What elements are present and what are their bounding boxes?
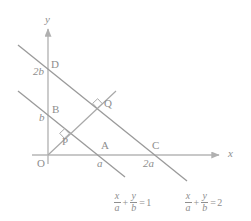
plus-operator-eq2: + <box>194 197 200 208</box>
y-tick-b: b <box>39 112 45 123</box>
x-tick-a: a <box>97 158 103 169</box>
rhs-value-eq1: 1 <box>146 197 151 208</box>
y-tick-2b: 2b <box>33 66 44 77</box>
fraction-y-over-b-eq1: y b <box>130 191 137 213</box>
denominator-b-eq1: b <box>130 203 137 214</box>
fraction-x-over-a-eq2: x a <box>185 191 192 213</box>
equation-line-one: x a + y b = 1 <box>113 191 151 213</box>
equals-sign-eq1: = <box>139 197 145 208</box>
x-axis-label: x <box>228 148 233 159</box>
numerator-y-eq1: y <box>130 191 136 202</box>
point-label-c: C <box>152 140 159 151</box>
denominator-a-eq1: a <box>114 203 121 214</box>
point-label-q: Q <box>104 98 112 109</box>
point-label-a: A <box>101 140 109 151</box>
point-label-p: P <box>62 136 68 147</box>
denominator-b-eq2: b <box>201 203 208 214</box>
numerator-y-eq2: y <box>201 191 207 202</box>
rhs-value-eq2: 2 <box>217 197 222 208</box>
fraction-y-over-b-eq2: y b <box>201 191 208 213</box>
fraction-x-over-a-eq1: x a <box>114 191 121 213</box>
y-axis-label: y <box>45 14 50 25</box>
numerator-x-eq1: x <box>114 191 120 202</box>
geometry-diagram: y x O 2b b a 2a D B P Q A C x a + y b = … <box>0 0 251 221</box>
equation-line-two: x a + y b = 2 <box>184 191 222 213</box>
point-label-b: B <box>52 104 59 115</box>
x-tick-2a: 2a <box>143 158 154 169</box>
origin-label: O <box>37 158 45 169</box>
diagram-canvas <box>0 0 251 221</box>
numerator-x-eq2: x <box>185 191 191 202</box>
point-label-d: D <box>51 59 59 70</box>
equals-sign-eq2: = <box>210 197 216 208</box>
denominator-a-eq2: a <box>185 203 192 214</box>
plus-operator-eq1: + <box>123 197 129 208</box>
